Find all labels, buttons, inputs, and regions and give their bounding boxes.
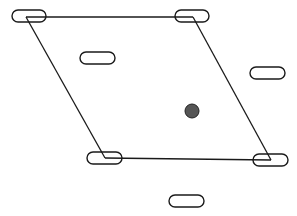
center-dot xyxy=(185,104,199,118)
pill-top-right xyxy=(175,10,209,22)
pill-bottom xyxy=(169,195,204,207)
edge-3 xyxy=(105,158,271,160)
pill-right xyxy=(250,67,285,79)
edge-2 xyxy=(193,17,271,160)
pill-top-left xyxy=(12,10,46,22)
parallelogram-diagram xyxy=(0,0,297,216)
edge-1 xyxy=(26,17,105,158)
pill-inner-left xyxy=(80,52,115,64)
